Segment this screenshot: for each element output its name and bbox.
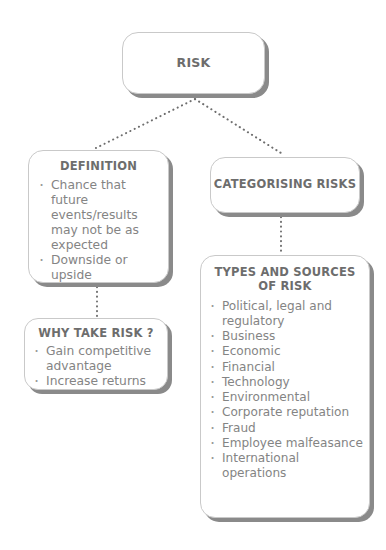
diagram-canvas: RISK DEFINITION Chance that future event… [0, 0, 386, 550]
node-categorising-risks-title: CATEGORISING RISKS [214, 178, 356, 192]
node-why-take-risk-bullets: Gain competitive advantage Increase retu… [31, 344, 161, 390]
node-types-and-sources-of-risk-bullets: Political, legal and regulatory Business… [207, 299, 363, 481]
list-item: Fraud [207, 421, 363, 436]
node-risk-title: RISK [177, 56, 211, 71]
list-item: Political, legal and regulatory [207, 299, 363, 329]
node-types-and-sources-of-risk-title: TYPES AND SOURCES OF RISK [207, 266, 363, 293]
node-definition-title: DEFINITION [36, 160, 161, 174]
list-item: Business [207, 329, 363, 344]
connector-risk-to-definition [96, 99, 195, 148]
node-definition[interactable]: DEFINITION Chance that future events/res… [28, 150, 169, 283]
list-item: Economic [207, 344, 363, 359]
list-item: Technology [207, 375, 363, 390]
node-why-take-risk[interactable]: WHY TAKE RISK ? Gain competitive advanta… [24, 318, 168, 390]
node-why-take-risk-title: WHY TAKE RISK ? [31, 327, 161, 341]
list-item: Employee malfeasance [207, 436, 363, 451]
list-item: Corporate reputation [207, 405, 363, 420]
connector-risk-to-categorising-risks [195, 99, 281, 153]
node-definition-bullets: Chance that future events/results may no… [36, 178, 161, 284]
list-item: International operations [207, 451, 363, 481]
list-item: Downside or upside [36, 253, 161, 283]
list-item: Environmental [207, 390, 363, 405]
node-categorising-risks[interactable]: CATEGORISING RISKS [210, 157, 360, 213]
node-types-and-sources-of-risk[interactable]: TYPES AND SOURCES OF RISK Political, leg… [200, 255, 370, 518]
list-item: Increase returns [31, 374, 161, 389]
list-item: Gain competitive advantage [31, 344, 161, 374]
node-risk[interactable]: RISK [122, 32, 265, 94]
list-item: Financial [207, 360, 363, 375]
list-item: Chance that future events/results may no… [36, 178, 161, 253]
